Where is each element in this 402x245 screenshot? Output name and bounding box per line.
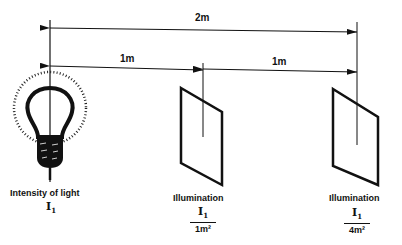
dimension-1m-first-label: 1m (120, 53, 134, 64)
surface-2-formula: I1 4m² (344, 206, 370, 236)
dimension-1m-second-arrow (203, 69, 357, 72)
surface-2-panel (333, 89, 378, 185)
dimension-2m-arrow (50, 28, 357, 32)
dimension-1m-first-arrow (50, 66, 203, 70)
dimension-2m-label: 2m (195, 12, 209, 23)
surface-2-label: Illumination (329, 193, 380, 203)
source-symbol: I1 (46, 200, 56, 215)
surface-1-formula: I1 1m² (190, 205, 216, 235)
surface-1-panel (181, 88, 222, 185)
dimension-1m-second-label: 1m (272, 56, 286, 67)
surface-1-label: Illumination (173, 193, 224, 203)
source-label: Intensity of light (10, 188, 80, 198)
